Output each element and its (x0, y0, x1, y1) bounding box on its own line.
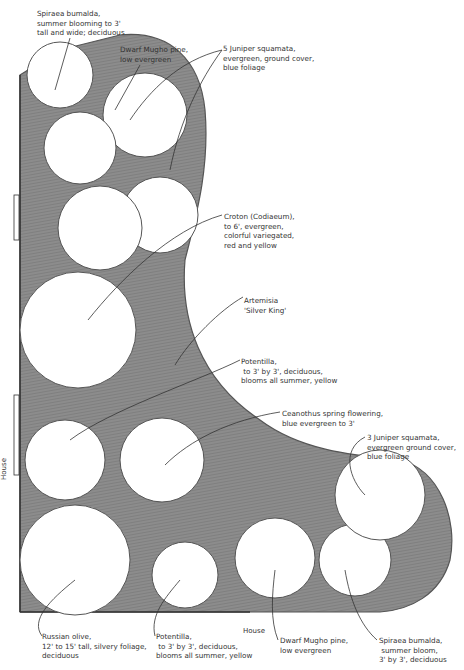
house-label-vertical: House (0, 458, 8, 480)
plant-mugho-bottom (235, 518, 315, 598)
planting-plan-drawing (0, 0, 464, 670)
label-juniper-top: 5 Juniper squamata, evergreen, ground co… (223, 44, 314, 73)
label-croton: Croton (Codiaeum), to 6', evergreen, col… (224, 212, 295, 250)
label-spiraea-top: Spiraea bumalda, summer blooming to 3' t… (37, 9, 125, 38)
label-mugho-top: Dwarf Mugho pine, low evergreen (120, 45, 188, 64)
label-spiraea-bottom: Spiraea bumalda, summer bloom, 3' by 3',… (379, 636, 447, 665)
label-russian-olive: Russian olive, 12' to 15' tall, silvery … (42, 632, 147, 661)
label-artemisia: Artemisia 'Silver King' (244, 296, 286, 315)
label-juniper-right: 3 Juniper squamata, evergreen ground cov… (367, 433, 456, 462)
window-2 (14, 395, 19, 475)
plant-artemisia (20, 272, 136, 388)
label-ceanothus: Ceanothus spring flowering, blue evergre… (282, 409, 383, 428)
plant-potentilla-mid (25, 420, 105, 500)
label-potentilla-bottom: Potentilla, to 3' by 3', deciduous, bloo… (156, 632, 252, 661)
plant-potentilla-bottom (152, 542, 218, 608)
plant-juniper-right (335, 450, 425, 540)
plant-spiraea-top (27, 42, 93, 108)
plant-mugho-top (44, 112, 116, 184)
label-potentilla-mid: Potentilla, to 3' by 3', deciduous, bloo… (241, 357, 337, 386)
plant-ceanothus (120, 418, 204, 502)
window-1 (14, 195, 19, 240)
plant-croton (58, 186, 142, 270)
plant-russian-olive (20, 505, 130, 615)
label-mugho-bottom: Dwarf Mugho pine, low evergreen (280, 636, 348, 655)
